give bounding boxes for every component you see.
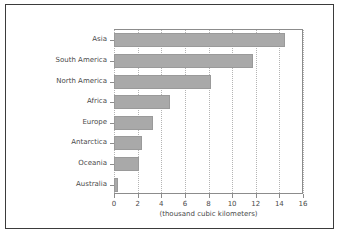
category-tick: [110, 61, 114, 62]
x-tick-mark: [279, 194, 280, 198]
bar-africa: [114, 95, 170, 109]
category-label-asia: Asia: [6, 35, 107, 43]
gridline: [303, 30, 304, 193]
bar-row: [114, 54, 303, 68]
category-tick: [110, 40, 114, 41]
category-label-europe: Europe: [6, 118, 107, 126]
bar-row: [114, 75, 303, 89]
x-axis-title: (thousand cubic kilometers): [114, 210, 303, 218]
x-tick-label: 16: [288, 200, 318, 208]
bar-row: [114, 178, 303, 192]
bar-row: [114, 33, 303, 47]
plot-area: [114, 29, 303, 194]
category-label-oceania: Oceania: [6, 159, 107, 167]
bar-row: [114, 157, 303, 171]
category-tick: [110, 102, 114, 103]
x-tick-mark: [232, 194, 233, 198]
bar-europe: [114, 116, 153, 130]
bar-north-america: [114, 75, 211, 89]
category-label-antarctica: Antarctica: [6, 138, 107, 146]
bar-oceania: [114, 157, 139, 171]
x-tick-mark: [209, 194, 210, 198]
x-tick-mark: [256, 194, 257, 198]
bar-australia: [114, 178, 118, 192]
figure-frame: AsiaSouth AmericaNorth AmericaAfricaEuro…: [5, 4, 334, 229]
category-tick: [110, 123, 114, 124]
bar-asia: [114, 33, 285, 47]
category-label-south-america: South America: [6, 56, 107, 64]
category-tick: [110, 164, 114, 165]
category-tick: [110, 143, 114, 144]
category-label-australia: Australia: [6, 180, 107, 188]
x-tick-mark: [138, 194, 139, 198]
category-label-africa: Africa: [6, 97, 107, 105]
bar-row: [114, 95, 303, 109]
chart-figure: AsiaSouth AmericaNorth AmericaAfricaEuro…: [0, 0, 341, 240]
category-tick: [110, 82, 114, 83]
bar-row: [114, 116, 303, 130]
category-tick: [110, 185, 114, 186]
bar-antarctica: [114, 136, 142, 150]
category-label-north-america: North America: [6, 77, 107, 85]
x-tick-mark: [114, 194, 115, 198]
x-tick-mark: [185, 194, 186, 198]
x-tick-mark: [303, 194, 304, 198]
bar-south-america: [114, 54, 253, 68]
x-tick-mark: [161, 194, 162, 198]
bar-row: [114, 136, 303, 150]
